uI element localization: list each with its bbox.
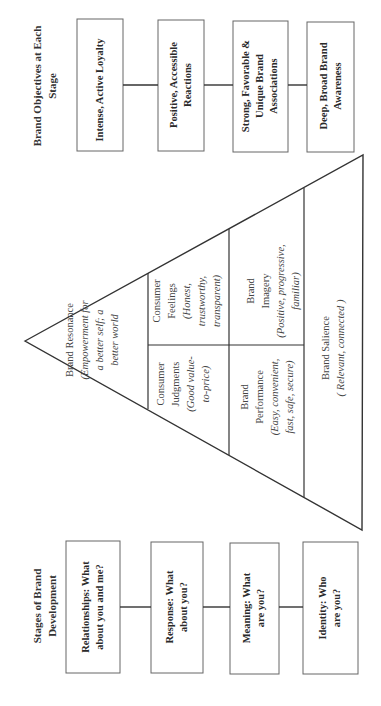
pyramid-feelings: Consumer Feelings (Honest, trustworthy, … <box>147 258 225 344</box>
objective-box-2-label: Positive, Accessible Reactions <box>167 35 195 135</box>
pyramid-imagery: Brand Imagery (Positive, progressive, fa… <box>237 236 309 346</box>
imagery-desc: (Positive, progressive, familiar) <box>273 241 303 341</box>
performance-title: Brand Performance <box>237 367 267 427</box>
stage-box-3: Meaning: What are you? <box>234 543 274 673</box>
salience-desc: ( Relevant, connected ) <box>333 300 348 397</box>
feelings-desc: (Honest, trustworthy, transparent) <box>179 270 224 332</box>
performance-desc: (Easy, convenient, fast, safe, secure) <box>267 349 297 445</box>
pyramid-performance: Brand Performance (Easy, convenient, fas… <box>230 342 304 452</box>
stage-box-3-label: Meaning: What are you? <box>240 571 268 646</box>
resonance-desc: (Empowerment for a better self; a better… <box>77 300 122 380</box>
objective-box-3-label: Strong, Favorable & Unique Brand Associa… <box>239 31 281 141</box>
stage-box-1: Relationships: What about you and me? <box>68 542 118 672</box>
objective-box-1: Intense, Active Loyalty <box>80 25 120 155</box>
stage-box-4: Identity: Who are you? <box>310 543 350 673</box>
objective-box-3: Strong, Favorable & Unique Brand Associa… <box>235 21 285 151</box>
pyramid-salience: Brand Salience ( Relevant, connected ) <box>308 273 358 423</box>
stage-box-1-label: Relationships: What about you and me? <box>79 552 107 662</box>
brand-resonance-pyramid-figure: Brand Objectives at Each Stage Intense, … <box>0 0 381 706</box>
resonance-title: Brand Resonance <box>62 300 77 380</box>
salience-title: Brand Salience <box>318 300 333 397</box>
feelings-title: Consumer Feelings <box>149 271 179 331</box>
objective-box-2: Positive, Accessible Reactions <box>161 20 201 150</box>
judgments-desc: (Good value-to-price) <box>183 353 213 415</box>
stage-box-4-label: Identity: Who are you? <box>316 571 344 646</box>
stages-heading-text: Stages of Brand Development <box>30 561 60 651</box>
imagery-title: Brand Imagery <box>243 266 273 316</box>
stages-heading: Stages of Brand Development <box>29 536 61 676</box>
judgments-title: Consumer Judgments <box>153 354 183 414</box>
objective-box-1-label: Intense, Active Loyalty <box>93 39 107 142</box>
objectives-heading: Brand Objectives at Each Stage <box>29 16 61 156</box>
objective-box-4-label: Deep, Broad Brand Awareness <box>317 41 345 131</box>
stage-box-2-label: Response: What about you? <box>163 567 191 647</box>
pyramid-resonance: Brand Resonance (Empowerment for a bette… <box>52 295 132 385</box>
objective-box-4: Deep, Broad Brand Awareness <box>311 21 351 151</box>
stage-box-2: Response: What about you? <box>157 542 197 672</box>
objectives-heading-text: Brand Objectives at Each Stage <box>30 16 60 156</box>
pyramid-judgments: Consumer Judgments (Good value-to-price) <box>144 346 222 422</box>
